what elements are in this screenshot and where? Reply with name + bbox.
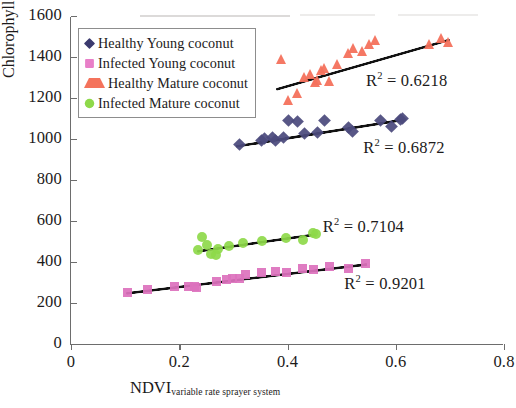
x-axis-tick-label: 0.6	[385, 352, 406, 372]
data-point	[309, 265, 318, 274]
data-point	[224, 241, 234, 251]
tick-mark	[71, 16, 77, 17]
tick-mark	[504, 344, 505, 350]
r-squared-symbol: R	[363, 138, 374, 157]
data-point	[257, 236, 267, 246]
y-axis-tick-label: 1200	[28, 87, 62, 107]
tick-mark	[71, 139, 77, 140]
data-point	[212, 277, 221, 286]
x-axis-title-text: NDVI	[130, 378, 171, 397]
data-point	[361, 259, 370, 268]
tick-mark	[179, 344, 180, 350]
r-squared-value: = 0.7104	[339, 217, 404, 236]
data-point	[292, 88, 302, 98]
triangle-marker-icon	[84, 78, 105, 88]
data-point	[311, 229, 321, 239]
legend-item: Healthy Young coconut	[84, 33, 248, 53]
r-squared-annotation: R2 = 0.9201	[344, 273, 425, 294]
data-point	[424, 39, 434, 49]
tick-mark	[71, 98, 77, 99]
data-point	[271, 267, 280, 276]
r-squared-annotation: R2 = 0.6872	[363, 137, 444, 158]
tick-mark	[71, 303, 77, 304]
legend-item-label: Infected Mature coconut	[98, 95, 240, 112]
data-point	[312, 75, 322, 85]
x-axis-tick-label: 0.8	[493, 352, 514, 372]
y-axis-tick-label: 200	[37, 292, 62, 312]
legend-item-label: Healthy Young coconut	[98, 35, 234, 52]
data-point	[319, 63, 329, 73]
data-point	[257, 268, 266, 277]
tick-mark	[71, 221, 77, 222]
r-squared-symbol: R	[323, 217, 334, 236]
data-point	[370, 35, 380, 45]
r-squared-symbol: R	[344, 273, 355, 292]
data-point	[213, 244, 223, 254]
x-axis-tick-label: 0.2	[169, 352, 190, 372]
scan-artifact	[300, 14, 375, 16]
r-squared-symbol: R	[366, 70, 377, 89]
y-axis-title-text: Chlorophyll content (µmol m	[0, 0, 17, 78]
data-point	[170, 282, 179, 291]
r-squared-annotation: R2 = 0.7104	[323, 216, 404, 237]
data-point	[193, 245, 203, 255]
tick-mark	[71, 262, 77, 263]
tick-mark	[71, 57, 77, 58]
data-point	[324, 76, 334, 86]
data-point	[282, 268, 291, 277]
x-axis-title: NDVIvariable rate sprayer system	[130, 378, 280, 398]
data-point	[298, 127, 311, 140]
y-axis-tick-label: 1400	[28, 46, 62, 66]
data-point	[298, 235, 308, 245]
data-point	[276, 54, 286, 64]
circle-marker-icon	[85, 98, 94, 107]
data-point	[291, 115, 304, 128]
data-point	[443, 37, 453, 47]
y-axis-tick-label: 600	[37, 210, 62, 230]
x-axis-tick-label: 0	[67, 352, 75, 372]
y-axis-tick-label: 0	[54, 333, 62, 353]
y-axis-title: Chlorophyll content (µmol m-2)	[0, 0, 18, 78]
r-squared-value: = 0.6218	[383, 70, 448, 89]
data-point	[238, 238, 248, 248]
data-point	[332, 59, 342, 69]
data-point	[192, 283, 201, 292]
y-axis-tick-label: 1000	[28, 128, 62, 148]
tick-mark	[288, 344, 289, 350]
y-axis-tick-label: 400	[37, 251, 62, 271]
data-point	[318, 115, 331, 128]
scan-artifact	[398, 14, 478, 16]
data-point	[325, 262, 334, 271]
chart-legend: Healthy Young coconut Infected Young coc…	[78, 28, 256, 118]
data-point	[143, 285, 152, 294]
data-point	[123, 288, 132, 297]
data-point	[311, 126, 324, 139]
data-point	[298, 264, 307, 273]
data-point	[233, 138, 246, 151]
legend-item-label: Infected Young coconut	[98, 55, 235, 72]
tick-mark	[71, 344, 72, 350]
y-axis-tick-label: 800	[37, 169, 62, 189]
square-marker-icon	[85, 59, 94, 68]
legend-item: Healthy Mature coconut	[84, 73, 248, 93]
tick-mark	[71, 180, 77, 181]
x-axis-tick-label: 0.4	[277, 352, 298, 372]
legend-item: Infected Young coconut	[84, 53, 248, 73]
r-squared-annotation: R2 = 0.6218	[366, 70, 447, 91]
r-squared-value: = 0.6872	[380, 138, 445, 157]
r-squared-value: = 0.9201	[361, 273, 426, 292]
data-point	[241, 270, 250, 279]
y-axis-tick-label: 1600	[28, 5, 62, 25]
tick-mark	[396, 344, 397, 350]
data-point	[281, 233, 291, 243]
legend-item-label: Healthy Mature coconut	[108, 75, 248, 92]
legend-item: Infected Mature coconut	[84, 93, 248, 113]
diamond-marker-icon	[84, 37, 95, 48]
x-axis-title-subscript: variable rate sprayer system	[171, 387, 280, 397]
chart-figure: Chlorophyll content (µmol m-2) NDVIvaria…	[0, 0, 516, 408]
